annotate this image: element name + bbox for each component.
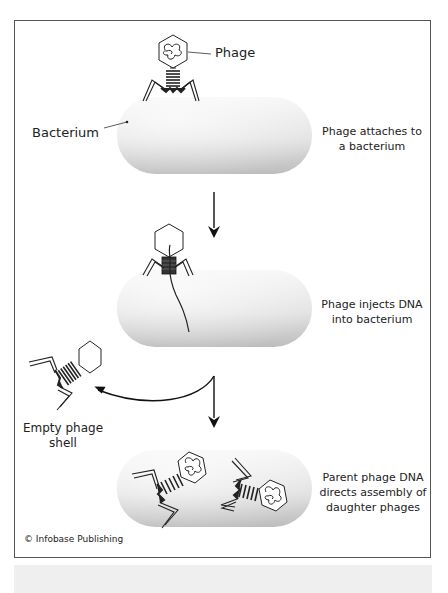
step-1-line-1: Phage attaches to bbox=[320, 124, 424, 139]
phage-pointer-line bbox=[188, 52, 211, 54]
step-3-line-1: Parent phage DNA bbox=[318, 470, 428, 485]
arrow-down-icon-1 bbox=[208, 192, 220, 238]
label-empty-phage-shell: Empty phage shell bbox=[18, 421, 108, 451]
step-2-caption: Phage injects DNA into bacterium bbox=[320, 297, 424, 327]
empty-shell-line-1: Empty phage bbox=[18, 421, 108, 436]
label-phage: Phage bbox=[215, 45, 255, 60]
arrow-branch bbox=[94, 376, 220, 428]
bacterium-1 bbox=[117, 97, 312, 174]
label-bacterium: Bacterium bbox=[32, 125, 99, 140]
empty-phage-shell-icon bbox=[29, 341, 101, 410]
empty-shell-line-2: shell bbox=[18, 436, 108, 451]
step-2-line-1: Phage injects DNA bbox=[320, 297, 424, 312]
step-3-caption: Parent phage DNA directs assembly of dau… bbox=[318, 470, 428, 515]
phage-icon-attached bbox=[143, 35, 199, 101]
step-1-caption: Phage attaches to a bacterium bbox=[320, 124, 424, 154]
copyright-credit: © Infobase Publishing bbox=[24, 534, 123, 544]
step-2-line-2: into bacterium bbox=[320, 312, 424, 327]
step-3-line-3: daughter phages bbox=[318, 500, 428, 515]
bacterium-2 bbox=[117, 270, 312, 347]
step-1-line-2: a bacterium bbox=[320, 139, 424, 154]
step-3-line-2: directs assembly of bbox=[318, 485, 428, 500]
